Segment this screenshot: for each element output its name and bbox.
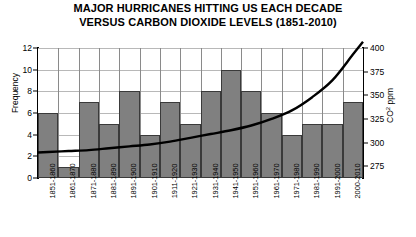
x-axis-label-cell: 1921-1930: [180, 179, 200, 235]
x-axis-labels: 1851-18601861-18701871-18801881-18901891…: [38, 179, 363, 235]
x-axis-tick-label: 1911-1920: [170, 164, 179, 198]
y-axis-right-tick-mark: [364, 95, 368, 96]
y-axis-right-tick-label: 350: [370, 90, 400, 100]
chart-title-line-2: VERSUS CARBON DIOXIDE LEVELS (1851-2010): [0, 16, 416, 30]
y-axis-right-tick-mark: [364, 142, 368, 143]
y-axis-left-tick-label: 0: [0, 173, 32, 183]
x-axis-tick-label: 1921-1930: [190, 164, 199, 199]
chart-root: MAJOR HURRICANES HITTING US EACH DECADE …: [0, 0, 416, 237]
chart-title-line-1: MAJOR HURRICANES HITTING US EACH DECADE: [0, 2, 416, 16]
x-axis-label-cell: 1861-1870: [58, 179, 78, 235]
y-axis-right-tick-label: 325: [370, 114, 400, 124]
x-axis-tick-label: 1931-1940: [211, 164, 220, 199]
x-axis-label-cell: 1911-1920: [160, 179, 180, 235]
x-axis-tick-label: 1891-1900: [129, 164, 138, 199]
y-axis-right-tick-label: 275: [370, 161, 400, 171]
x-axis-tick-label: 1881-1890: [109, 164, 118, 199]
y-axis-right-tick-label: 375: [370, 67, 400, 77]
x-axis-tick-label: 1861-1870: [68, 164, 77, 199]
y-axis-left-tick-label: 8: [0, 86, 32, 96]
x-axis-tick-label: 1951-1960: [251, 164, 260, 199]
y-axis-right-tick-mark: [364, 118, 368, 119]
x-axis-tick-label: 1871-1880: [89, 164, 98, 199]
x-axis-label-cell: 1901-1910: [140, 179, 160, 235]
y-axis-left-tick-label: 10: [0, 65, 32, 75]
y-axis-right-tick-label: 300: [370, 138, 400, 148]
y-axis-right-tick-mark: [364, 71, 368, 72]
x-axis-label-cell: 1981-1990: [302, 179, 322, 235]
x-axis-tick-label: 1941-1950: [231, 164, 240, 199]
x-axis-tick-label: 1991-2000: [333, 164, 342, 199]
x-axis-label-cell: 1891-1900: [119, 179, 139, 235]
x-axis-label-cell: 1991-2000: [322, 179, 342, 235]
x-axis-label-cell: 2000-2010: [343, 179, 363, 235]
y-axis-left-tick-mark: [33, 178, 37, 179]
y-axis-left-tick-label: 2: [0, 151, 32, 161]
x-axis-label-cell: 1961-1970: [261, 179, 281, 235]
y-axis-left-tick-mark: [33, 156, 37, 157]
y-axis-right-title-sup: 2: [385, 107, 391, 110]
y-axis-left-tick-mark: [33, 69, 37, 70]
y-axis-left-tick-mark: [33, 48, 37, 49]
chart-title: MAJOR HURRICANES HITTING US EACH DECADE …: [0, 2, 416, 29]
x-axis-label-cell: 1851-1860: [38, 179, 58, 235]
y-axis-right-tick-mark: [364, 166, 368, 167]
y-axis-left-tick-mark: [33, 113, 37, 114]
x-axis-tick-label: 1851-1860: [48, 164, 57, 199]
y-axis-left-tick-label: 12: [0, 43, 32, 53]
co2-trend-line: [38, 48, 363, 178]
y-axis-left-tick-mark: [33, 134, 37, 135]
x-axis-label-cell: 1951-1960: [241, 179, 261, 235]
plot-area: [38, 48, 363, 178]
x-axis-label-cell: 1871-1880: [79, 179, 99, 235]
x-axis-tick-label: 1981-1990: [312, 164, 321, 199]
x-axis-label-cell: 1881-1890: [99, 179, 119, 235]
y-axis-left-tick-mark: [33, 91, 37, 92]
x-axis-label-cell: 1931-1940: [201, 179, 221, 235]
y-axis-right-tick-label: 400: [370, 43, 400, 53]
x-axis-label-cell: 1971-1980: [282, 179, 302, 235]
x-axis-tick-label: 2000-2010: [353, 164, 362, 199]
co2-trend-path: [38, 42, 363, 153]
x-axis-label-cell: 1941-1950: [221, 179, 241, 235]
y-axis-left-tick-label: 6: [0, 108, 32, 118]
y-axis-left-tick-label: 4: [0, 130, 32, 140]
x-axis-tick-label: 1961-1970: [272, 164, 281, 199]
x-axis-tick-label: 1901-1910: [150, 164, 159, 199]
x-axis-tick-label: 1971-1980: [292, 164, 301, 199]
y-axis-right-tick-mark: [364, 48, 368, 49]
